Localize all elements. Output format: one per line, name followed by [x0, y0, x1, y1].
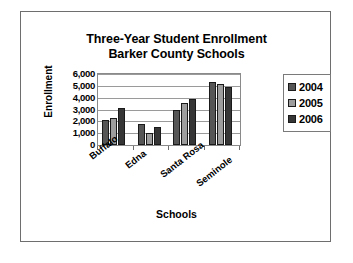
y-axis-tick-label: 2,000	[57, 116, 95, 125]
x-axis-category-label: Edna	[123, 148, 148, 171]
y-axis-tick-labels: 6,0005,0004,0003,0002,0001,0000	[57, 67, 95, 153]
bar-group	[98, 74, 134, 145]
bar	[154, 127, 161, 145]
chart-title: Three-Year Student Enrollment Barker Cou…	[21, 32, 332, 61]
bar	[173, 110, 180, 145]
chart-title-line1: Three-Year Student Enrollment	[86, 32, 266, 46]
x-axis-tick-mark	[133, 146, 134, 150]
chart-screenshot: Three-Year Student Enrollment Barker Cou…	[0, 0, 353, 263]
x-axis-category-label: Seminole	[194, 154, 234, 189]
legend-label: 2006	[299, 113, 323, 125]
legend-item[interactable]: 2005	[288, 95, 327, 111]
bar	[209, 82, 216, 145]
plot-area	[97, 73, 241, 146]
bar	[189, 99, 196, 145]
legend-swatch-icon	[288, 99, 296, 107]
y-axis-title: Enrollment	[43, 56, 54, 128]
legend-swatch-icon	[288, 115, 296, 123]
chart-legend: 200420052006	[283, 74, 331, 132]
bar	[217, 84, 224, 145]
chart-frame: Three-Year Student Enrollment Barker Cou…	[20, 11, 331, 242]
y-axis-tick-label: 1,000	[57, 128, 95, 137]
bar	[138, 124, 145, 145]
bar-group	[169, 74, 205, 145]
bar	[225, 87, 232, 145]
bar	[181, 103, 188, 145]
x-axis-tick-mark	[97, 146, 98, 150]
y-axis-tick-label: 4,000	[57, 93, 95, 102]
legend-item[interactable]: 2004	[288, 79, 327, 95]
legend-swatch-icon	[288, 83, 296, 91]
bar-group	[134, 74, 170, 145]
y-axis-tick-label: 3,000	[57, 105, 95, 114]
x-axis-tick-mark	[168, 146, 169, 150]
legend-label: 2004	[299, 81, 323, 93]
legend-item[interactable]: 2006	[288, 111, 327, 127]
chart-title-line2: Barker County Schools	[21, 47, 332, 61]
y-axis-tick-label: 6,000	[57, 69, 95, 78]
y-axis-tick-label: 5,000	[57, 81, 95, 90]
x-axis-title: Schools	[21, 208, 332, 220]
legend-label: 2005	[299, 97, 323, 109]
bar	[146, 133, 153, 145]
bar-group	[205, 74, 241, 145]
x-axis-tick-mark	[239, 146, 240, 150]
y-axis-tick-label: 0	[57, 140, 95, 149]
